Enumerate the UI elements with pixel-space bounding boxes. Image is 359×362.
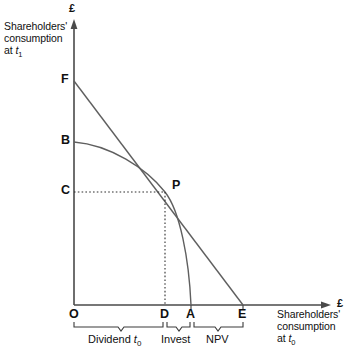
x-axis-time-sub: 0	[291, 339, 295, 348]
bracket-label-invest: Invest	[161, 333, 190, 345]
point-label-F: F	[61, 72, 69, 86]
bracket-dividend	[74, 322, 163, 331]
capital-market-line-FE	[74, 81, 243, 305]
bracket-label-invest-text: Invest	[161, 333, 190, 345]
point-label-O: O	[69, 307, 79, 321]
production-possibility-curve-BA	[74, 142, 191, 305]
y-axis-caption-time: t1	[15, 44, 22, 56]
bracket-label-dividend: Dividend t0	[88, 333, 141, 348]
x-axis-caption-time: t0	[288, 332, 295, 344]
y-axis-currency-symbol: £	[69, 2, 75, 14]
x-axis-caption: Shareholders' consumption at t0	[277, 308, 359, 350]
bracket-invest	[167, 322, 190, 331]
y-axis-time-sub: 1	[18, 51, 22, 60]
bracket-label-dividend-sub: 0	[137, 339, 141, 348]
y-axis	[71, 19, 78, 305]
y-axis-caption: Shareholders' consumption at t1	[4, 20, 76, 62]
point-label-P: P	[172, 178, 180, 192]
point-label-B: B	[61, 133, 70, 147]
bracket-npv	[194, 322, 243, 331]
y-axis-caption-text: Shareholders' consumption at	[4, 20, 67, 56]
bracket-label-dividend-text: Dividend	[88, 333, 134, 345]
point-label-E: E	[238, 307, 246, 321]
point-label-A: A	[186, 307, 195, 321]
bracket-label-npv-text: NPV	[206, 333, 229, 345]
investment-opportunity-diagram: £ £ Shareholders' consumption at t1 Shar…	[0, 0, 359, 362]
point-label-C: C	[61, 183, 70, 197]
x-axis-caption-text: Shareholders' consumption at	[277, 308, 340, 344]
bracket-label-npv: NPV	[206, 333, 229, 345]
point-label-D: D	[160, 307, 169, 321]
